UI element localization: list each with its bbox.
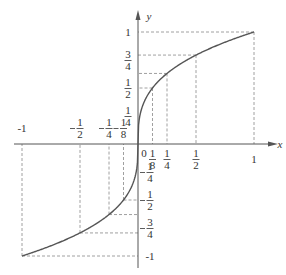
- x-tick-label: 2: [193, 159, 199, 171]
- cube-root-plot: -1121418018141211341214141234-1xy: [0, 0, 286, 275]
- x-tick-label: 4: [164, 159, 170, 171]
- y-tick-label: 2: [147, 200, 153, 212]
- x-tick-label: 1: [251, 153, 257, 165]
- y-tick-label: 4: [125, 116, 131, 128]
- x-tick-label: 4: [106, 128, 112, 140]
- x-axis-label: x: [277, 138, 283, 150]
- origin-label: 0: [141, 147, 147, 159]
- x-tick-label: -1: [17, 122, 26, 134]
- y-tick-label: 3: [147, 216, 153, 228]
- y-tick-label: 3: [125, 48, 131, 60]
- y-axis-arrow-icon: [136, 10, 141, 20]
- y-tick-label: 2: [125, 88, 131, 100]
- y-axis-label: y: [146, 10, 152, 22]
- y-tick-label: 1: [125, 26, 131, 38]
- x-tick-label: 8: [121, 128, 127, 140]
- x-tick-label: 1: [150, 147, 156, 159]
- x-tick-label: 1: [164, 147, 170, 159]
- x-tick-label: 1: [193, 147, 199, 159]
- y-tick-label: -1: [145, 250, 154, 262]
- y-tick-label: 1: [147, 160, 153, 172]
- y-tick-label: 1: [125, 76, 131, 88]
- x-axis-arrow-icon: [268, 142, 278, 147]
- x-tick-label: 1: [106, 116, 112, 128]
- y-tick-label: 4: [147, 172, 153, 184]
- y-tick-label: 4: [147, 228, 153, 240]
- y-tick-label: 4: [125, 60, 131, 72]
- x-tick-label: 1: [77, 116, 83, 128]
- y-tick-label: 1: [147, 188, 153, 200]
- x-tick-label: 2: [77, 128, 83, 140]
- y-tick-label: 1: [125, 104, 131, 116]
